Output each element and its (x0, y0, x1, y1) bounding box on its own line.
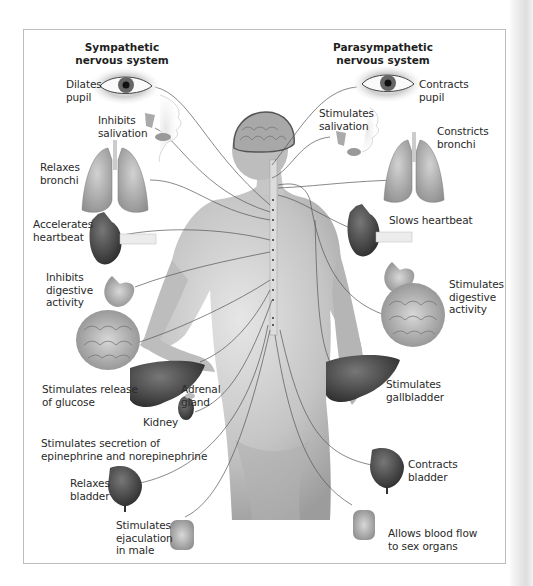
label-line: bladder (408, 471, 458, 484)
label-line: salivation (319, 120, 374, 133)
label-line: Stimulates (116, 519, 173, 532)
header-line: Parasympathetic (328, 41, 438, 54)
label-line: Relaxes (70, 477, 110, 490)
label-line: salivation (98, 127, 148, 140)
label-relaxes-bladder: Relaxes bladder (70, 477, 110, 502)
label-line: Relaxes (40, 161, 80, 174)
label-release-glucose: Stimulates release of glucose (42, 383, 138, 408)
label-stimulates-ejaculation: Stimulates ejaculation in male (116, 519, 173, 557)
label-line: Kidney (143, 416, 178, 429)
heart-icon (348, 204, 380, 256)
label-line: epinephrine and norepinephrine (41, 450, 207, 463)
label-line: bronchi (437, 138, 489, 151)
label-line: ejaculation (116, 532, 173, 545)
label-kidney: Kidney (143, 416, 178, 429)
label-stimulates-salivation: Stimulates salivation (319, 107, 374, 132)
label-line: gland (181, 396, 221, 409)
label-line: activity (46, 296, 93, 309)
label-inhibits-salivation: Inhibits salivation (98, 114, 148, 139)
label-slows-heartbeat: Slows heartbeat (389, 214, 473, 227)
label-line: pupil (419, 91, 469, 104)
label-line: Stimulates (449, 278, 504, 291)
label-line: Dilates (66, 78, 102, 91)
label-stimulates-digestive: Stimulates digestive activity (449, 278, 504, 316)
bladder-icon (370, 448, 404, 488)
label-contracts-pupil: Contracts pupil (419, 78, 469, 103)
label-constricts-bronchi: Constricts bronchi (437, 125, 489, 150)
label-blood-flow-sex-organs: Allows blood flow to sex organs (388, 527, 477, 552)
label-line: bladder (70, 490, 110, 503)
label-line: Contracts (408, 458, 458, 471)
label-line: Allows blood flow (388, 527, 477, 540)
label-line: Constricts (437, 125, 489, 138)
label-line: Inhibits (98, 114, 148, 127)
label-epinephrine-secretion: Stimulates secretion of epinephrine and … (41, 437, 207, 462)
header-line: Sympathetic (72, 41, 172, 54)
genitals-icon (353, 510, 375, 540)
label-line: heartbeat (33, 231, 93, 244)
label-adrenal-gland: Adrenal gland (181, 383, 221, 408)
label-dilates-pupil: Dilates pupil (66, 78, 102, 103)
intestines-icon (381, 283, 445, 347)
label-line: Accelerates (33, 218, 93, 231)
lungs-icon (82, 148, 112, 212)
label-line: Contracts (419, 78, 469, 91)
label-line: Slows heartbeat (389, 214, 473, 227)
label-line: Stimulates secretion of (41, 437, 207, 450)
lungs-icon (384, 140, 412, 202)
parasympathetic-header: Parasympathetic nervous system (328, 41, 438, 66)
label-line: bronchi (40, 174, 80, 187)
label-line: Stimulates release (42, 383, 138, 396)
label-inhibits-digestive: Inhibits digestive activity (46, 271, 93, 309)
stomach-icon (104, 276, 134, 307)
heart-icon (90, 212, 122, 264)
label-contracts-bladder: Contracts bladder (408, 458, 458, 483)
label-stimulates-gallbladder: Stimulates gallbladder (386, 378, 444, 403)
label-line: in male (116, 544, 173, 557)
genitals-icon (170, 520, 194, 550)
label-line: digestive (46, 284, 93, 297)
label-relaxes-bronchi: Relaxes bronchi (40, 161, 80, 186)
label-line: of glucose (42, 396, 138, 409)
header-line: nervous system (328, 54, 438, 67)
label-line: to sex organs (388, 540, 477, 553)
sympathetic-header: Sympathetic nervous system (72, 41, 172, 66)
label-line: gallbladder (386, 391, 444, 404)
header-line: nervous system (72, 54, 172, 67)
label-line: Adrenal (181, 383, 221, 396)
intestines-icon (76, 310, 140, 370)
label-line: Stimulates (386, 378, 444, 391)
label-line: Inhibits (46, 271, 93, 284)
label-line: Stimulates (319, 107, 374, 120)
label-line: activity (449, 303, 504, 316)
label-line: pupil (66, 91, 102, 104)
label-line: digestive (449, 291, 504, 304)
bladder-icon (108, 466, 142, 506)
label-accelerates-heartbeat: Accelerates heartbeat (33, 218, 93, 243)
